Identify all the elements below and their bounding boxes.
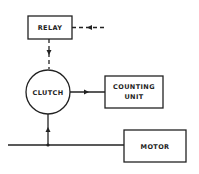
counting-unit-label-line1: COUNTING [113, 83, 155, 91]
motor-label: MOTOR [141, 143, 170, 151]
relay-to-clutch-arrowhead [47, 50, 52, 55]
junction-dot [46, 143, 49, 146]
counting-unit-label-line2: UNIT [124, 93, 143, 101]
relay-label: RELAY [38, 24, 63, 32]
counting-unit-box [105, 76, 163, 108]
motor-to-clutch-arrowhead [46, 127, 51, 132]
clutch-to-counting-arrowhead [84, 90, 89, 95]
block-diagram: RELAY CLUTCH COUNTING UNIT MOTOR [0, 0, 199, 174]
clutch-label: CLUTCH [32, 89, 63, 97]
relay-input-arrowhead [87, 25, 92, 30]
